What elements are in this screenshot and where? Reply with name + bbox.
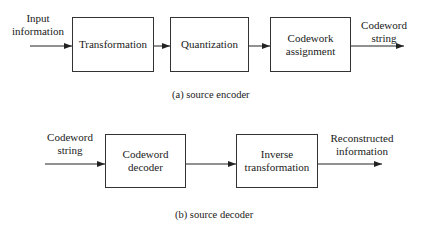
quantization-block: Quantization	[170, 17, 249, 72]
inverse-transformation-block: Inverse transformation	[236, 134, 318, 188]
decoder-caption: (b) source decoder	[175, 209, 253, 220]
decoder-input-label: Codeword string	[42, 131, 98, 157]
decoder-output-label: Reconstructed information	[326, 132, 398, 158]
codeword-decoder-block: Codeword decoder	[105, 134, 186, 188]
codework-assignment-block: Codework assignment	[270, 17, 351, 72]
encoder-caption: (a) source encoder	[172, 89, 250, 100]
encoder-output-label: Codeword string	[354, 19, 414, 45]
transformation-block: Transformation	[72, 17, 154, 72]
encoder-input-label: Input information	[10, 12, 66, 38]
